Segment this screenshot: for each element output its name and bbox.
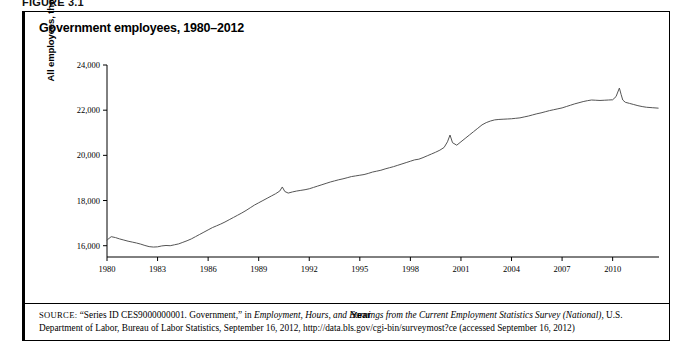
source-note: SOURCE: “Series ID CES9000000001. Govern… <box>39 309 659 335</box>
x-tick-label: 1992 <box>301 264 318 274</box>
x-tick-label: 2010 <box>604 264 621 274</box>
x-tick-label: 1995 <box>351 264 368 274</box>
x-tick-label: 1983 <box>149 264 166 274</box>
tick-marks <box>103 65 613 261</box>
y-tick-label: 24,000 <box>61 60 100 70</box>
y-tick-label: 16,000 <box>61 241 100 251</box>
x-tick-label: 2007 <box>554 264 571 274</box>
x-tick-label: 1998 <box>402 264 419 274</box>
source-text-1: “Series ID CES9000000001. Government,” i… <box>80 310 254 320</box>
chart-title: Government employees, 1980–2012 <box>39 21 244 35</box>
y-tick-label: 22,000 <box>61 105 100 115</box>
data-series-line <box>107 88 658 247</box>
figure-root: FIGURE 3.1 Government employees, 1980–20… <box>0 0 686 351</box>
x-tick-label: 2001 <box>452 264 469 274</box>
x-tick-label: 1980 <box>99 264 116 274</box>
figure-panel: Government employees, 1980–2012 All empl… <box>22 11 670 341</box>
source-divider <box>25 303 669 304</box>
y-tick-label: 20,000 <box>61 150 100 160</box>
axis-lines <box>107 65 659 257</box>
y-axis-title: All employees, thousands <box>45 0 56 109</box>
y-tick-label: 18,000 <box>61 196 100 206</box>
x-tick-label: 1989 <box>250 264 267 274</box>
plot-area: All employees, thousands Year 24,00022,0… <box>61 59 661 291</box>
source-label: SOURCE: <box>39 310 77 320</box>
x-tick-label: 1986 <box>200 264 217 274</box>
line-chart-svg <box>61 59 661 291</box>
x-tick-label: 2004 <box>503 264 520 274</box>
source-text-italic: Employment, Hours, and Earnings from the… <box>254 310 604 320</box>
